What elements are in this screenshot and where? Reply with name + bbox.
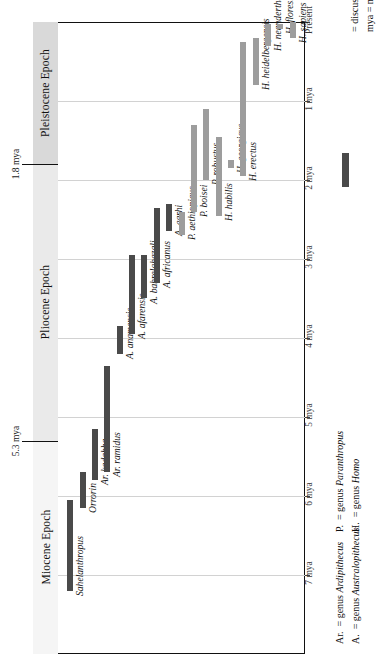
epoch-label: Pliocene Epoch (40, 265, 52, 340)
hominin-timeline-figure: Pleistocene EpochPliocene EpochMiocene E… (0, 0, 380, 671)
species-range-bar (104, 366, 110, 473)
epoch-cell-pliocene: Pliocene Epoch (33, 164, 58, 441)
species-range-bar (191, 125, 197, 212)
gridline-4-mya (58, 338, 305, 339)
species-range-bar (290, 22, 296, 38)
legend-genus-name: Australopithecus (350, 528, 361, 596)
species-range-bar (265, 24, 271, 45)
species-range-bar (67, 500, 73, 591)
species-range-bar (129, 255, 135, 334)
legend-genus-abbreviations: Ar. = genus Ardipithecus A. = genus Aust… (318, 420, 380, 660)
legend-units: mya = millions of years ago = discussed … (318, 30, 378, 280)
species-label: H. sapiens (297, 2, 308, 43)
species-range-bar (240, 42, 246, 176)
epoch-band: Pleistocene EpochPliocene EpochMiocene E… (33, 22, 58, 654)
species-range-bar (141, 255, 147, 298)
species-label: H. erectus (247, 142, 258, 181)
tick-label-text: 5 mya (304, 403, 314, 426)
legend-a-abbrev: A. (350, 634, 361, 644)
boundary-note-text: 5.3 mya (11, 425, 21, 456)
tick-label-text: 1 mya (304, 87, 314, 110)
gridline-5-mya (58, 417, 305, 418)
species-label: P. boisei (198, 184, 209, 216)
legend-genus-h: H. = genus Homo (350, 459, 361, 532)
legend-discussed-note: = discussed in this volume (349, 0, 360, 32)
epoch-separator (33, 441, 58, 442)
legend-p-abbrev: P. (334, 525, 345, 532)
boundary-tick (22, 164, 33, 165)
tick-label-text: 4 mya (304, 324, 314, 347)
species-range-bar (228, 160, 234, 168)
legend-genus-name: Paranthropus (334, 431, 345, 486)
gridline-1-mya (58, 101, 305, 102)
boundary-tick (22, 441, 33, 442)
legend-genus-a: A. = genus Australopithecus (350, 528, 361, 645)
species-label: Ar. ramidus (111, 433, 122, 478)
species-range-bar (203, 109, 209, 180)
species-range-bar (179, 212, 185, 236)
species-range-bar (253, 38, 259, 85)
species-label: Orrorin (87, 483, 98, 513)
species-range-bar (117, 326, 123, 354)
species-range-bar (80, 472, 86, 508)
legend-h-abbrev: H. (350, 522, 361, 532)
legend-genus-p: P. = genus Paranthropus (334, 431, 345, 532)
species-range-bar (216, 137, 222, 216)
species-label: Sahelanthropus (74, 536, 85, 596)
epoch-cell-miocene: Miocene Epoch (33, 441, 58, 654)
tick-label-text: 6 mya (304, 482, 314, 505)
boundary-note-text: 1.8 mya (11, 149, 21, 180)
epoch-separator (33, 164, 58, 165)
gridline-7-mya (58, 575, 305, 576)
tick-label-text: 2 mya (304, 166, 314, 189)
species-range-bar (166, 204, 172, 232)
epoch-label: Miocene Epoch (40, 510, 52, 585)
species-label: A. africanus (161, 241, 172, 288)
legend-p-expansion (334, 520, 345, 523)
legend-genus-name: Ardipithecus (334, 542, 345, 593)
gridline-2-mya (58, 180, 305, 181)
legend-discussed-swatch (342, 153, 349, 187)
species-range-bar (154, 208, 160, 283)
legend-genus-name: Homo (350, 459, 361, 483)
legend-mya-note: mya = millions of years ago (364, 0, 375, 32)
legend-a-expansion (350, 629, 361, 632)
species-range-bar (92, 429, 98, 480)
tick-label-text: 3 mya (304, 245, 314, 268)
species-range-bar (277, 24, 283, 30)
gridline-3-mya (58, 259, 305, 260)
legend-genus-ar: Ar. = genus Ardipithecus (334, 542, 345, 644)
tick-label-text: 7 mya (304, 561, 314, 584)
epoch-cell-pleistocene: Pleistocene Epoch (33, 22, 58, 164)
legend-ar-expansion (334, 627, 345, 630)
legend-ar-abbrev: Ar. (334, 632, 345, 645)
legend-h-expansion (350, 517, 361, 520)
epoch-label: Pleistocene Epoch (40, 49, 52, 137)
species-label: H. habilis (223, 183, 234, 221)
species-label: A. afarensis (136, 294, 147, 339)
